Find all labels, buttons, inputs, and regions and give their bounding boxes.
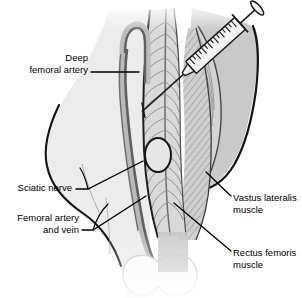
label-line: femoral artery [0, 64, 88, 76]
label-rectus-femoris-muscle: Rectus femorismuscle [233, 247, 296, 271]
label-layer: Deepfemoral arterySciatic nerveFemoral a… [0, 0, 302, 298]
label-line: Deep [0, 52, 88, 64]
label-deep-femoral-artery: Deepfemoral artery [0, 52, 88, 76]
label-line: Rectus femoris [233, 247, 296, 259]
label-line: Sciatic nerve [0, 182, 72, 194]
label-line: Femoral artery [0, 212, 79, 224]
label-line: muscle [233, 204, 297, 216]
label-line: muscle [233, 259, 296, 271]
label-line: Vastus lateralis [233, 192, 297, 204]
label-line: and vein [0, 224, 79, 236]
label-vastus-lateralis-muscle: Vastus lateralismuscle [233, 192, 297, 216]
anatomical-illustration: Deepfemoral arterySciatic nerveFemoral a… [0, 0, 302, 298]
label-femoral-artery-and-vein: Femoral arteryand vein [0, 212, 79, 236]
label-sciatic-nerve: Sciatic nerve [0, 182, 72, 194]
